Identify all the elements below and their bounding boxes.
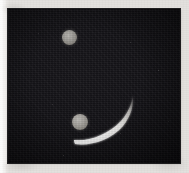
field-star [158,70,159,71]
upper-gray-disk [62,30,77,45]
field-star [52,104,53,105]
film-grain-overlay [8,9,180,163]
crescent-arc-bright-core [74,130,112,143]
plate-vignette-overlay [8,9,180,163]
sky-field-plate [8,9,180,163]
crescent-arc-shape [8,9,180,163]
astro-plate-figure [0,0,189,173]
field-star [168,121,169,122]
field-star [38,33,39,34]
field-star [130,42,131,43]
lower-gray-disk [72,114,88,130]
field-star [63,155,64,156]
field-star [120,133,121,134]
